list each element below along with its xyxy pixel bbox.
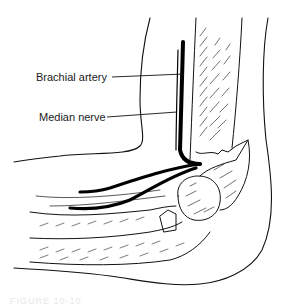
forearm-bone-mid [30, 222, 182, 239]
median-nerve-leader [107, 112, 177, 117]
humerus-left-edge [190, 18, 196, 160]
humerus-fracture-edge [196, 140, 248, 154]
artery-forearm-branch-1 [80, 164, 200, 192]
humeral-condyle [178, 176, 221, 220]
radial-head [160, 210, 176, 232]
brachial-artery-leader [112, 74, 184, 77]
upper-arm-skin-left [14, 18, 150, 162]
brachial-artery-label: Brachial artery [36, 71, 107, 83]
forearm-bone-lower [30, 232, 210, 265]
figure-caption: FIGURE 10-10 [10, 296, 82, 306]
median-nerve-label: Median nerve [39, 111, 106, 123]
median-nerve-vessel [176, 50, 178, 150]
humerus-right-edge [232, 18, 242, 148]
artery-forearm-branch-2 [70, 168, 196, 209]
brachial-artery-vessel [180, 42, 200, 164]
